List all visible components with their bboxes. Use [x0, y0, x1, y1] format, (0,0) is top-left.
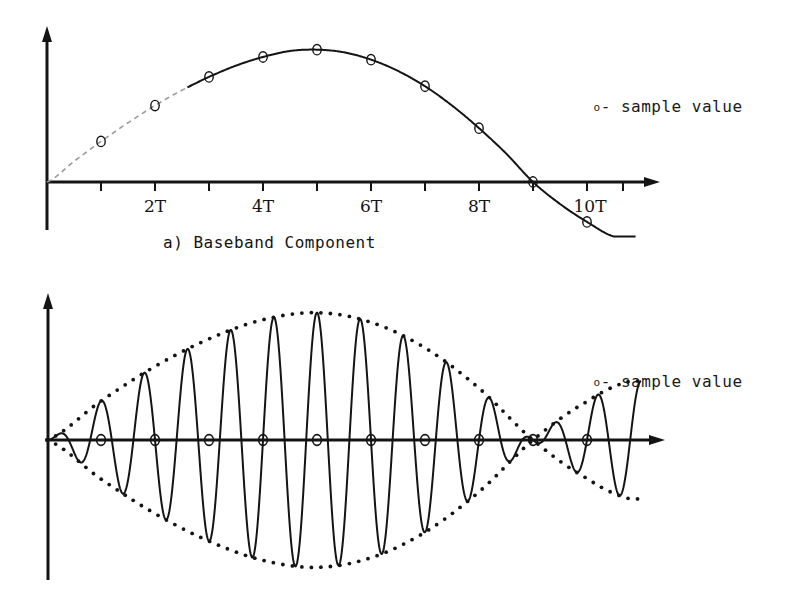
envelope-dot [608, 490, 612, 494]
panel-b-modulated-chart [0, 280, 792, 609]
envelope-dot [480, 389, 484, 393]
panel-b-legend: o- sample value [553, 353, 743, 410]
envelope-dot [225, 547, 229, 551]
envelope-dot [410, 538, 414, 542]
envelope-dot [69, 453, 73, 457]
envelope-dot [92, 472, 96, 476]
envelope-dot [487, 481, 491, 485]
envelope-dot [384, 326, 388, 330]
envelope-dot [199, 536, 203, 540]
panel-a-sample-markers [97, 44, 591, 227]
envelope-dot [522, 430, 526, 434]
envelope-dot [357, 559, 361, 563]
envelope-dot [328, 312, 332, 316]
panel-b-legend-text: - sample value [601, 372, 743, 391]
envelope-dot [393, 330, 397, 334]
panel-b-x-axis [48, 435, 665, 445]
envelope-dot [375, 554, 379, 558]
panel-a-tick-label-8T: 8T [468, 196, 491, 216]
panel-a-tick-label-2T: 2T [144, 196, 167, 216]
panel-a-legend: o- sample value [553, 78, 743, 135]
envelope-dot [626, 496, 630, 500]
envelope-dot [348, 562, 352, 566]
envelope-dot [244, 553, 248, 557]
envelope-dot [402, 542, 406, 546]
panel-a-tick-labels: 2T 4T 6T 8T 10T [144, 196, 607, 216]
envelope-dot [338, 313, 342, 317]
envelope-dot [583, 475, 587, 479]
envelope-dot [427, 348, 431, 352]
envelope-dot [494, 474, 498, 478]
sample-marker-icon: o [594, 376, 601, 389]
envelope-dot [235, 326, 239, 330]
envelope-dot [419, 343, 423, 347]
envelope-dot [480, 487, 484, 491]
panel-b-y-axis [43, 293, 53, 580]
envelope-dot [522, 447, 526, 451]
envelope-dot [309, 565, 313, 569]
envelope-dot [567, 465, 571, 469]
panel-a-tick-label-10T: 10T [574, 196, 608, 216]
envelope-dot [473, 493, 477, 497]
envelope-dot [271, 561, 275, 565]
envelope-dot [235, 550, 239, 554]
envelope-dot [281, 563, 285, 567]
envelope-dot [253, 320, 257, 324]
envelope-dot [77, 417, 81, 421]
envelope-dot [435, 353, 439, 357]
envelope-dot [567, 411, 571, 415]
panel-a-y-axis [42, 26, 52, 230]
envelope-dot [501, 467, 505, 471]
envelope-dot [62, 429, 66, 433]
panel-b-upper-envelope [45, 311, 639, 501]
envelope-dot [458, 506, 462, 510]
panel-a-caption: a) Baseband Component [163, 233, 376, 252]
envelope-dot [309, 311, 313, 315]
panel-a-x-axis [47, 177, 660, 187]
envelope-dot [190, 531, 194, 535]
envelope-dot [92, 405, 96, 409]
envelope-dot [466, 377, 470, 381]
envelope-dot [328, 565, 332, 569]
figure-page: 2T 4T 6T 8T 10T o- sample value a) Baseb… [0, 0, 792, 609]
envelope-dot [99, 477, 103, 481]
envelope-dot [451, 365, 455, 369]
envelope-dot [393, 546, 397, 550]
envelope-dot [244, 323, 248, 327]
envelope-dot [384, 550, 388, 554]
envelope-dot [501, 409, 505, 413]
envelope-dot [515, 423, 519, 427]
envelope-dot [600, 485, 604, 489]
envelope-dot [217, 333, 221, 337]
envelope-dot [348, 315, 352, 319]
envelope-dot [375, 322, 379, 326]
envelope-dot [262, 559, 266, 563]
envelope-dot [636, 497, 640, 501]
envelope-dot [84, 465, 88, 469]
envelope-dot [591, 481, 595, 485]
sample-marker-icon [151, 100, 159, 110]
sample-marker-icon: o [594, 101, 601, 114]
envelope-dot [156, 363, 160, 367]
envelope-dot [508, 416, 512, 420]
envelope-dot [544, 448, 548, 452]
envelope-dot [410, 338, 414, 342]
envelope-dot [148, 509, 152, 513]
envelope-dot [544, 428, 548, 432]
envelope-dot [131, 378, 135, 382]
envelope-dot [435, 523, 439, 527]
envelope-dot [107, 483, 111, 487]
envelope-dot [290, 312, 294, 316]
envelope-dot [190, 345, 194, 349]
envelope-dot [69, 423, 73, 427]
envelope-dot [139, 504, 143, 508]
envelope-dot [300, 311, 304, 315]
envelope-dot [559, 416, 563, 420]
envelope-dot [366, 319, 370, 323]
envelope-dot [62, 447, 66, 451]
envelope-dot [148, 368, 152, 372]
envelope-dot [451, 511, 455, 515]
envelope-dot [551, 454, 555, 458]
panel-a-baseband-chart: 2T 4T 6T 8T 10T [0, 0, 792, 270]
envelope-dot [54, 442, 58, 446]
